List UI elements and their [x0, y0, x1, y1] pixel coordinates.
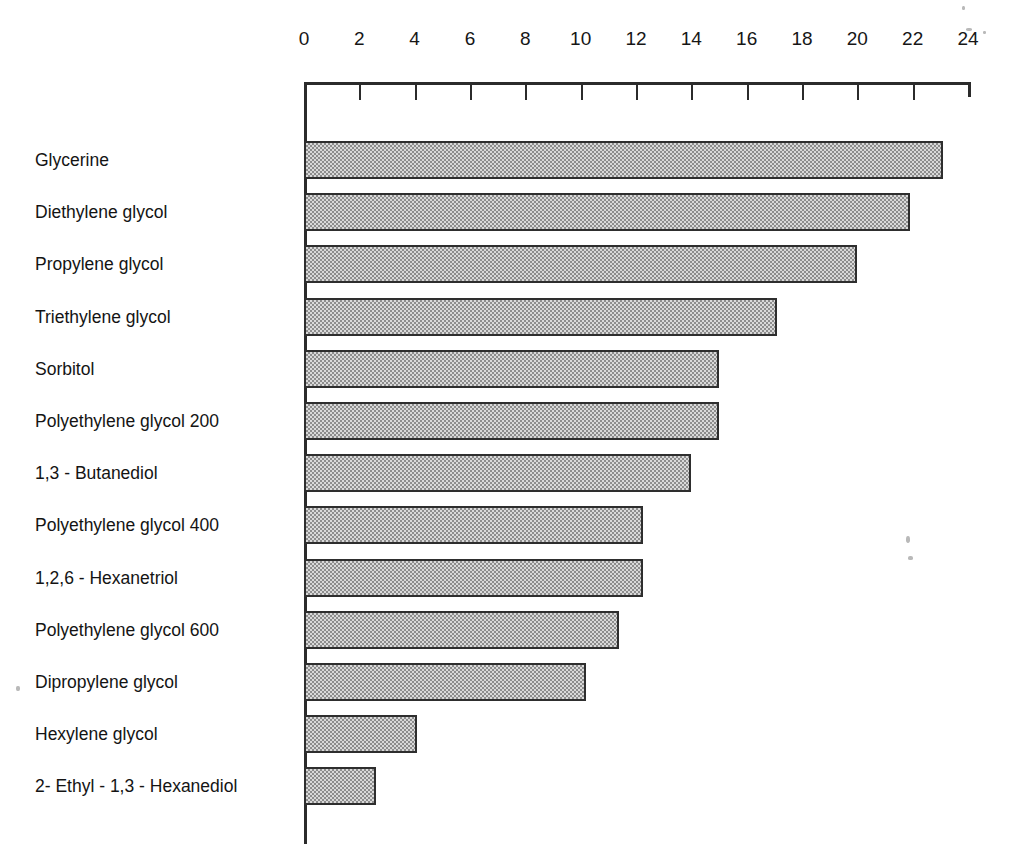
scan-speckle: [962, 6, 965, 10]
bar-0: [304, 141, 943, 179]
bar-3: [304, 298, 777, 336]
bar-4: [304, 350, 719, 388]
bar-8: [304, 559, 643, 597]
scan-speckle: [906, 536, 910, 543]
bar-6: [304, 454, 691, 492]
bar-1: [304, 193, 910, 231]
scan-speckle: [983, 31, 986, 34]
bar-11: [304, 715, 417, 753]
bar-7: [304, 506, 643, 544]
bar-12: [304, 767, 376, 805]
scan-speckle: [966, 28, 972, 31]
bar-10: [304, 663, 586, 701]
bar-chart: 024681012141618202224 GlycerineDiethylen…: [0, 0, 1028, 864]
scan-speckle: [908, 556, 913, 560]
bar-5: [304, 402, 719, 440]
bar-series: [0, 0, 1028, 864]
bar-2: [304, 245, 857, 283]
scan-speckle: [16, 686, 20, 691]
bar-9: [304, 611, 619, 649]
